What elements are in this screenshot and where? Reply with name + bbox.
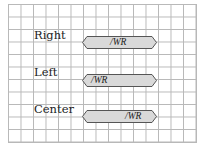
label-right: Right xyxy=(34,28,66,42)
diagram: Right /WR Left /WR Center /WR xyxy=(0,0,201,152)
wire-text-right: /WR xyxy=(110,36,126,49)
wire-shape-center: /WR xyxy=(82,110,157,123)
wire-text-center: /WR xyxy=(125,110,141,123)
label-left: Left xyxy=(34,65,57,79)
hexagon-shape-icon xyxy=(82,110,157,123)
label-center: Center xyxy=(34,102,74,116)
wire-shape-right: /WR xyxy=(82,36,157,49)
wire-shape-left: /WR xyxy=(82,74,157,87)
wire-text-left: /WR xyxy=(91,74,107,87)
